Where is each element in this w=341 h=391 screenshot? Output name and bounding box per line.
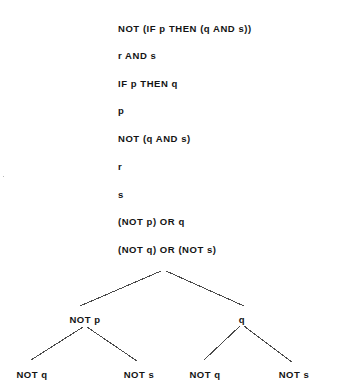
tree-node-not-p: NOT p <box>69 314 100 325</box>
tree-leaf-not-q-left: NOT q <box>16 369 47 380</box>
edge-q-to-not-s <box>244 326 292 362</box>
tree-leaf-not-s-left: NOT s <box>124 369 155 380</box>
formula-line: r <box>118 161 122 172</box>
page-canvas: NOT (IF p THEN (q AND s)) r AND s IF p T… <box>0 0 341 391</box>
edge-root-to-q <box>166 271 244 306</box>
edge-not-p-to-not-q <box>31 327 83 360</box>
edge-root-to-not-p <box>80 271 161 306</box>
edge-q-to-not-q <box>204 326 240 360</box>
formula-line: NOT (IF p THEN (q AND s)) <box>118 23 252 34</box>
formula-line: (NOT p) OR q <box>118 216 185 227</box>
formula-line: s <box>118 189 124 200</box>
scan-speck-icon <box>3 176 4 177</box>
tree-root-node: (NOT q) OR (NOT s) <box>118 244 217 255</box>
tree-edges <box>0 0 341 391</box>
tree-leaf-not-s-right: NOT s <box>279 369 310 380</box>
formula-line: p <box>118 105 124 116</box>
tree-leaf-not-q-right: NOT q <box>189 369 220 380</box>
tree-node-q: q <box>239 314 245 325</box>
formula-line: NOT (q AND s) <box>118 133 191 144</box>
formula-line: IF p THEN q <box>118 78 178 89</box>
formula-line: r AND s <box>118 50 156 61</box>
edge-not-p-to-not-s <box>87 327 137 361</box>
